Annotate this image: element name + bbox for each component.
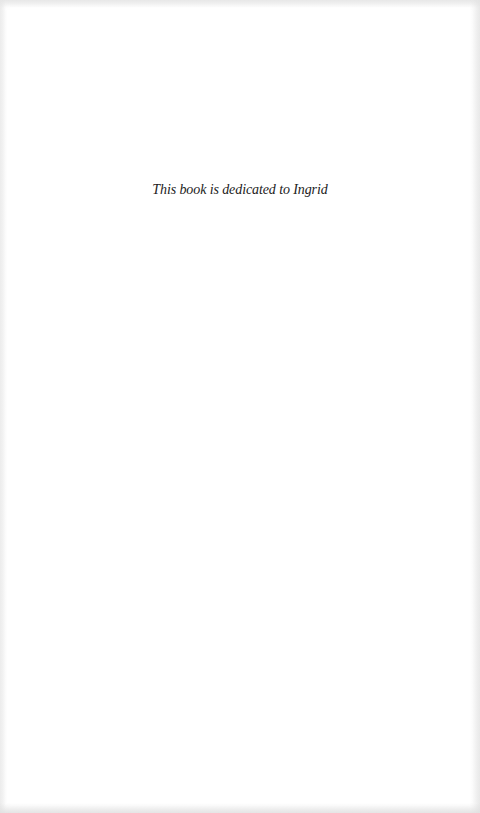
dedication-text: This book is dedicated to Ingrid bbox=[0, 180, 480, 200]
book-page: This book is dedicated to Ingrid bbox=[0, 0, 480, 813]
page-edge-left bbox=[0, 0, 6, 813]
page-edge-right bbox=[470, 0, 480, 813]
